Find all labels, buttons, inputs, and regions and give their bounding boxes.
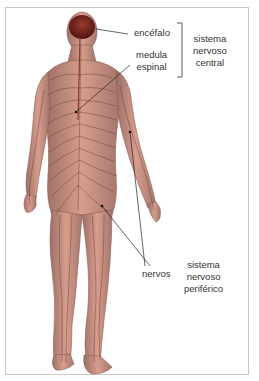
brain-encefalo [69,15,95,39]
encefalo-leader [96,29,128,34]
label-central-line2: nervoso [193,45,227,57]
label-medula-line1: medula [136,49,167,61]
nervos-arm-dot [129,131,132,134]
label-medula-espinal: medula espinal [136,49,167,73]
label-sistema-nervoso-periferico: sistema nervoso periférico [184,259,223,295]
label-periferico-line3: periférico [184,283,223,295]
label-nervos: nervos [142,268,171,280]
label-central-line1: sistema [193,33,227,45]
label-medula-line2: espinal [136,61,167,73]
label-central-line3: central [193,57,227,69]
label-sistema-nervoso-central: sistema nervoso central [193,33,227,69]
medula-dot [75,111,78,114]
label-periferico-line1: sistema [184,259,223,271]
label-encefalo: encéfalo [134,27,170,39]
nervos-leg-dot [101,205,104,208]
central-bracket [177,23,182,77]
label-periferico-line2: nervoso [184,271,223,283]
